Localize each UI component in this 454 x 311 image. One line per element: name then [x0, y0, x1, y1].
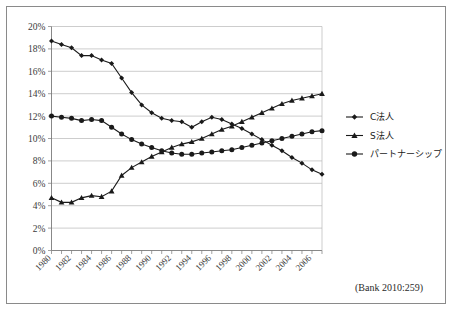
data-point [129, 137, 134, 142]
y-tick-label: 20% [28, 22, 46, 32]
data-point [259, 140, 264, 145]
x-axis-tick-labels: 1980198219841986198819901992199419961998… [33, 251, 322, 273]
y-tick-label: 10% [28, 134, 46, 144]
legend-marker [352, 114, 357, 119]
data-point [89, 53, 94, 58]
data-point [249, 132, 254, 137]
data-point [79, 118, 84, 123]
x-tick-label: 1982 [53, 253, 73, 273]
x-tick-label: 2004 [274, 252, 294, 272]
data-point [189, 152, 194, 157]
data-point [69, 116, 74, 121]
data-point [159, 116, 164, 121]
data-point [49, 114, 54, 119]
data-point [309, 129, 314, 134]
data-point [109, 188, 115, 193]
legend-marker [352, 151, 357, 156]
x-tick-label: 1996 [193, 252, 213, 272]
legend-item-3[interactable]: パートナーシップ [346, 149, 442, 159]
data-point [289, 134, 294, 139]
legend-label: C法人 [370, 111, 394, 122]
figure-container: 0%2%4%6%8%10%12%14%16%18%20% 19801982198… [0, 0, 454, 311]
data-point [279, 136, 284, 141]
data-point [219, 117, 224, 122]
line-chart: 0%2%4%6%8%10%12%14%16%18%20% 19801982198… [0, 0, 454, 311]
chart-legend: C法人S法人パートナーシップ [346, 111, 442, 159]
data-point [299, 132, 304, 137]
x-tick-label: 1990 [133, 252, 153, 272]
data-point [179, 119, 184, 124]
data-point [209, 149, 214, 154]
data-point [320, 128, 325, 133]
data-point [199, 151, 204, 156]
data-point [169, 118, 174, 123]
x-tick-label: 1988 [113, 252, 133, 272]
series-line [52, 94, 323, 203]
data-point [49, 195, 55, 200]
y-tick-label: 8% [33, 156, 46, 166]
x-tick-label: 1984 [73, 252, 93, 272]
data-point [129, 165, 135, 170]
data-point [249, 143, 254, 148]
data-point [179, 152, 184, 157]
data-point [320, 172, 325, 177]
data-point [119, 132, 124, 137]
y-tick-label: 2% [33, 224, 46, 234]
data-point [159, 148, 164, 153]
x-tick-label: 1992 [153, 253, 173, 273]
series-2 [49, 91, 325, 205]
series-1 [49, 39, 325, 177]
x-tick-label: 1994 [173, 252, 193, 272]
x-tick-label: 1998 [213, 252, 233, 272]
data-point [239, 145, 244, 150]
data-point [99, 58, 104, 63]
y-tick-label: 16% [28, 67, 46, 77]
data-point [209, 115, 214, 120]
data-point [169, 151, 174, 156]
x-tick-label: 2006 [294, 252, 314, 272]
y-axis-tick-labels: 0%2%4%6%8%10%12%14%16%18%20% [28, 22, 51, 256]
source-citation-text: (Bank 2010:259) [355, 282, 423, 293]
data-point [109, 125, 114, 130]
data-point [149, 145, 154, 150]
data-series [49, 39, 325, 205]
y-tick-label: 12% [28, 112, 46, 122]
data-point [269, 143, 274, 148]
data-point [229, 147, 234, 152]
legend-label: パートナーシップ [370, 149, 442, 159]
legend-label: S法人 [370, 130, 394, 141]
data-point [239, 126, 244, 131]
y-tick-label: 6% [33, 179, 46, 189]
source-citation: (Bank 2010:259) [330, 277, 448, 295]
legend-item-2[interactable]: S法人 [346, 130, 394, 141]
data-point [59, 42, 64, 47]
data-point [49, 39, 54, 44]
data-point [139, 142, 144, 147]
data-point [219, 148, 224, 153]
y-tick-label: 4% [33, 201, 46, 211]
data-point [189, 125, 194, 130]
x-tick-label: 1986 [93, 252, 113, 272]
x-tick-label: 2002 [254, 253, 274, 273]
y-tick-label: 14% [28, 89, 46, 99]
data-point [139, 159, 145, 164]
legend-item-1[interactable]: C法人 [346, 111, 394, 122]
y-tick-label: 18% [28, 44, 46, 54]
data-point [199, 119, 204, 124]
data-point [269, 138, 274, 143]
data-point [99, 118, 104, 123]
x-tick-label: 2000 [233, 252, 253, 272]
data-point [59, 115, 64, 120]
data-point [89, 117, 94, 122]
